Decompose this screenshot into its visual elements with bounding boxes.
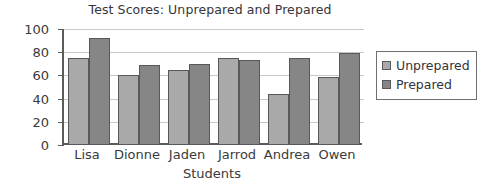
x-axis-tick-label-andrea: Andrea	[264, 147, 310, 162]
x-axis-tick-label-jaden: Jaden	[169, 147, 205, 162]
y-axis-tick-label: 0	[41, 138, 49, 153]
bar-jaden-prepared	[189, 64, 210, 145]
bar-lisa-unprepared	[68, 58, 89, 145]
x-axis-tick-label-lisa: Lisa	[74, 147, 100, 162]
legend-label: Unprepared	[396, 58, 470, 73]
y-axis-tick-label: 20	[32, 114, 49, 129]
bar-dionne-unprepared	[118, 75, 139, 145]
y-axis-tick-label: 60	[32, 68, 49, 83]
bar-dionne-prepared	[139, 65, 160, 145]
y-axis-tick-label: 40	[32, 91, 49, 106]
bar-andrea-prepared	[289, 58, 310, 145]
bar-jarrod-prepared	[239, 60, 260, 145]
legend-item-unprepared[interactable]: Unprepared	[382, 56, 470, 75]
y-axis-tick-label: 100	[24, 22, 49, 37]
y-axis-tick: 0	[58, 145, 64, 146]
bar-lisa-prepared	[89, 38, 110, 145]
x-axis-tick-label-owen: Owen	[318, 147, 355, 162]
bar-jarrod-unprepared	[218, 58, 239, 145]
x-axis-tick-label-dionne: Dionne	[114, 147, 160, 162]
legend-swatch-icon	[382, 80, 391, 89]
chart-title: Test Scores: Unprepared and Prepared	[0, 2, 420, 17]
legend-item-prepared[interactable]: Prepared	[382, 75, 470, 94]
x-axis-title: Students	[62, 166, 362, 181]
y-axis-tick-label: 80	[32, 45, 49, 60]
x-axis-tick-label-jarrod: Jarrod	[218, 147, 256, 162]
bar-andrea-unprepared	[268, 94, 289, 145]
legend-swatch-icon	[382, 61, 391, 70]
plot-area: 020406080100	[62, 29, 362, 145]
bar-owen-unprepared	[318, 77, 339, 145]
chart-legend: UnpreparedPrepared	[376, 51, 477, 100]
bar-chart-figure: Test Scores: Unprepared and Prepared Per…	[0, 0, 488, 194]
legend-label: Prepared	[396, 77, 452, 92]
x-axis-tick-labels: LisaDionneJadenJarrodAndreaOwen	[62, 147, 362, 165]
bar-owen-prepared	[339, 53, 360, 145]
bar-jaden-unprepared	[168, 70, 189, 145]
bars-layer	[64, 29, 364, 145]
